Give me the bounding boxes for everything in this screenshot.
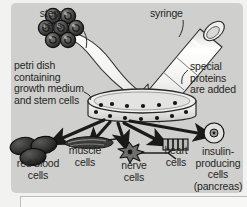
label-red-blood-cells: red blood cells [5,158,71,181]
label-special-proteins: special proteins are added [190,61,236,96]
page-bottom-strip [20,196,247,207]
label-insulin-producing-cells: insulin- producing cells (pancreas) [190,146,246,192]
label-stem-cells: stem cells [18,8,62,31]
label-petri-dish: petri dish containing growth medium and … [14,60,84,106]
label-syringe: syringe [150,8,183,20]
petri-dish-icon [88,89,196,122]
figure-canvas: stem cells syringe petri dish containing… [0,0,247,207]
insulin-cells-icon [204,123,224,143]
arrow-to-nerve-cells [118,123,124,141]
label-nerve-cells: nerve cells [113,160,155,183]
label-muscle-cells: muscle cells [64,145,106,168]
leader-syringe [179,20,183,37]
